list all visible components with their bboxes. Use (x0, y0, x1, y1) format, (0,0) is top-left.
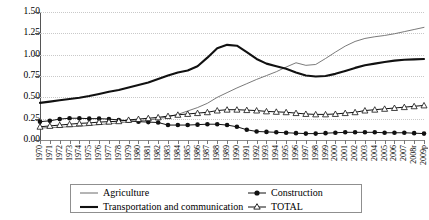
data-point (333, 130, 338, 135)
y-axis-labels: 0.000.250.500.751.001.251.50 (0, 0, 40, 160)
data-point (244, 127, 249, 132)
x-axis-tick (414, 140, 415, 144)
legend-marker-thick-line (79, 201, 99, 212)
x-axis-tick-label: 1986 (194, 145, 202, 161)
x-axis-tick-label: 1999 (322, 145, 330, 161)
data-point (195, 122, 200, 127)
x-axis-tick (60, 140, 61, 144)
data-point (205, 122, 210, 127)
x-axis-tick (296, 140, 297, 144)
x-axis-tick-label: 1994 (272, 145, 280, 161)
legend-label: Transportation and communication (103, 201, 243, 212)
x-axis-tick (345, 140, 346, 144)
data-point (215, 122, 220, 127)
x-axis-tick-label: 1978 (115, 145, 123, 161)
x-axis-tick-label: 1971 (46, 145, 54, 161)
data-point (343, 130, 348, 135)
x-axis-tick (326, 140, 327, 144)
x-axis-tick-label: 2006 (390, 145, 398, 161)
data-point (323, 131, 328, 136)
data-point (382, 130, 387, 135)
x-axis-tick (217, 140, 218, 144)
x-axis-tick-label: 1993 (262, 145, 270, 161)
x-axis-tick (70, 140, 71, 144)
x-axis-tick-label: 1997 (302, 145, 310, 161)
x-axis-tick-label: 1988 (213, 145, 221, 161)
legend-marker-thin-line (79, 187, 99, 198)
x-axis-tick (89, 140, 90, 144)
x-axis-tick-label: 1989 (223, 145, 231, 161)
data-point (185, 123, 190, 128)
data-point (57, 117, 62, 122)
x-axis-line (40, 140, 425, 141)
x-axis-tick (109, 140, 110, 144)
data-point (304, 131, 309, 136)
data-point (313, 131, 318, 136)
x-axis-tick-label: 1972 (56, 145, 64, 161)
data-point (235, 124, 240, 129)
x-axis-tick-label: 2004 (371, 145, 379, 161)
x-axis-tick (188, 140, 189, 144)
x-axis-tick (375, 140, 376, 144)
data-point (353, 130, 358, 135)
legend-label: Agriculture (103, 187, 149, 198)
x-axis-tick-label: 1975 (85, 145, 93, 161)
x-axis-tick (316, 140, 317, 144)
legend-item-agriculture[interactable]: Agriculture (79, 186, 149, 199)
x-axis-tick-label: 1973 (66, 145, 74, 161)
data-point (284, 130, 289, 135)
line-chart: 0.000.250.500.751.001.251.50 19701971197… (0, 0, 429, 220)
x-axis-tick-label: 1990 (233, 145, 241, 161)
x-axis-tick (286, 140, 287, 144)
x-axis-tick-label: 1984 (174, 145, 182, 161)
data-point (166, 123, 171, 128)
x-axis-tick-label: 2000 (331, 145, 339, 161)
data-point (264, 130, 269, 135)
x-axis-tick-label: 2007 (400, 145, 408, 161)
x-axis-tick (404, 140, 405, 144)
data-point (412, 131, 417, 136)
x-axis-tick (129, 140, 130, 144)
data-point (176, 123, 181, 128)
plot-area (40, 12, 424, 140)
x-axis-tick (276, 140, 277, 144)
legend-label: Construction (271, 187, 323, 198)
x-axis-tick (424, 140, 425, 144)
x-axis-tick-label: 2005 (381, 145, 389, 161)
legend-item-total[interactable]: TOTAL (247, 200, 303, 213)
x-axis-tick-label: 1970 (36, 145, 44, 161)
x-axis-tick-label: 1974 (75, 145, 83, 161)
x-axis-tick-label: 1976 (95, 145, 103, 161)
legend-item-transportation-and-communication[interactable]: Transportation and communication (79, 200, 243, 213)
series-transportation-and-communication (40, 45, 424, 103)
legend-item-construction[interactable]: Construction (247, 186, 323, 199)
x-axis-tick-label: 2003 (361, 145, 369, 161)
x-axis-tick (178, 140, 179, 144)
x-axis-tick-label: 2002 (351, 145, 359, 161)
legend-marker-filled-circle (247, 187, 267, 198)
data-point (67, 116, 72, 121)
x-axis-tick-label: 1977 (105, 145, 113, 161)
x-axis-tick-label: 1987 (203, 145, 211, 161)
x-axis-tick-label: 1983 (164, 145, 172, 161)
x-axis-tick (148, 140, 149, 144)
x-axis-tick (257, 140, 258, 144)
x-axis-tick-label: 1998 (312, 145, 320, 161)
data-point (402, 130, 407, 135)
x-axis-tick (394, 140, 395, 144)
x-axis-tick (40, 140, 41, 144)
x-axis-tick (119, 140, 120, 144)
data-point (274, 130, 279, 135)
x-axis-tick (227, 140, 228, 144)
data-point (156, 120, 161, 125)
x-axis-tick (207, 140, 208, 144)
x-axis-tick (355, 140, 356, 144)
x-axis-tick-label: 1982 (154, 145, 162, 161)
x-axis-tick (266, 140, 267, 144)
x-axis-tick (306, 140, 307, 144)
x-axis-tick (158, 140, 159, 144)
x-axis-tick-label: 2008r (410, 145, 418, 164)
x-axis-tick (247, 140, 248, 144)
x-axis-tick-label: 1996 (292, 145, 300, 161)
series-layer (40, 12, 424, 140)
